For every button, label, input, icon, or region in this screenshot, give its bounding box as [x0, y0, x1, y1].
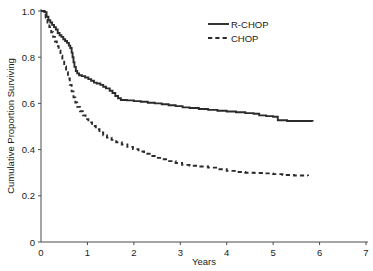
- x-tick-label: 0: [38, 247, 43, 258]
- x-tick-label: 1: [85, 247, 90, 258]
- y-tick-label: 0.6: [22, 98, 35, 109]
- x-tick-label: 6: [317, 247, 322, 258]
- x-tick-label: 3: [178, 247, 183, 258]
- y-tick-label: 0.8: [22, 52, 35, 63]
- series-line-chop: [41, 11, 308, 176]
- chart-canvas: 00.20.40.60.81.0 01234567 Cumulative Pro…: [0, 0, 373, 271]
- x-axis-title: Years: [192, 256, 216, 267]
- series-group: [41, 11, 313, 176]
- x-tick-label: 5: [270, 247, 275, 258]
- y-tick-group: 00.20.40.60.81.0: [22, 6, 41, 248]
- x-tick-label: 7: [363, 247, 368, 258]
- x-tick-label: 2: [131, 247, 136, 258]
- y-axis-title: Cumulative Proportion Surviving: [5, 58, 16, 194]
- x-tick-label: 4: [224, 247, 229, 258]
- y-tick-label: 0.4: [22, 144, 35, 155]
- y-tick-label: 0.2: [22, 190, 35, 201]
- y-tick-label: 1.0: [22, 6, 35, 17]
- y-tick-label: 0: [30, 237, 35, 248]
- survival-curve-figure: 00.20.40.60.81.0 01234567 Cumulative Pro…: [0, 0, 373, 271]
- legend: R-CHOP CHOP: [208, 19, 268, 44]
- axis-group: [41, 9, 368, 242]
- series-line-r-chop: [41, 11, 313, 121]
- legend-label-r-chop: R-CHOP: [231, 19, 268, 30]
- legend-label-chop: CHOP: [231, 33, 258, 44]
